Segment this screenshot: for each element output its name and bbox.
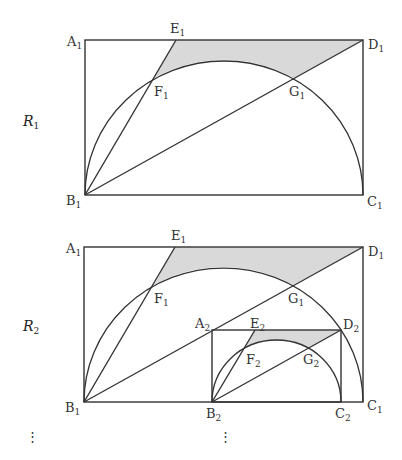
continuation-dots-right: ⋮ bbox=[219, 429, 232, 444]
arc-b1c1 bbox=[85, 61, 363, 195]
figure-r1: A1 E1 D1 F1 G1 B1 C1 R1 bbox=[22, 21, 384, 211]
label-d1-r2: D1 bbox=[368, 244, 384, 261]
label-a1: A1 bbox=[66, 34, 82, 51]
label-b2: B2 bbox=[206, 406, 221, 423]
label-c1-r2: C1 bbox=[367, 398, 383, 415]
shaded-region-r2-outer bbox=[154, 247, 363, 285]
label-g2: G2 bbox=[303, 352, 319, 369]
label-e1-r2: E1 bbox=[171, 228, 186, 245]
label-e2: E2 bbox=[250, 316, 265, 333]
figure-r2: A1 E1 D1 F1 G1 B1 C1 A2 E2 D2 F2 G2 B2 C… bbox=[22, 228, 384, 423]
label-d2: D2 bbox=[343, 317, 359, 334]
segment-b1d1 bbox=[85, 40, 363, 195]
label-b1-r2: B1 bbox=[65, 400, 80, 417]
label-d1: D1 bbox=[368, 37, 384, 54]
geometry-diagram: A1 E1 D1 F1 G1 B1 C1 R1 A1 E1 D1 F1 G1 bbox=[0, 0, 402, 460]
label-g1: G1 bbox=[289, 84, 305, 101]
label-e1: E1 bbox=[170, 21, 185, 38]
segment-b1d1-r2 bbox=[84, 247, 363, 402]
figure-label-r2: R2 bbox=[22, 318, 39, 336]
label-b1: B1 bbox=[66, 193, 81, 210]
label-a2: A2 bbox=[194, 316, 210, 333]
figure-label-r1: R1 bbox=[22, 113, 39, 131]
label-f2: F2 bbox=[246, 352, 261, 369]
label-g1-r2: G1 bbox=[288, 291, 304, 308]
label-f1: F1 bbox=[154, 84, 169, 101]
arc-b2c2 bbox=[212, 340, 341, 402]
continuation-dots-left: ⋮ bbox=[26, 429, 39, 444]
segment-b1e1-r2 bbox=[84, 247, 175, 402]
label-a1-r2: A1 bbox=[65, 241, 81, 258]
segment-b1e1 bbox=[85, 40, 176, 195]
shaded-region-r1 bbox=[154, 40, 363, 78]
label-c2: C2 bbox=[335, 406, 351, 423]
label-f1-r2: F1 bbox=[154, 291, 169, 308]
label-c1: C1 bbox=[367, 194, 383, 211]
